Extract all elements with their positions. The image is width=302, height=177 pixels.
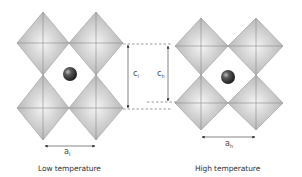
octahedron-icon — [17, 12, 69, 75]
c-low-label: cl — [133, 69, 139, 79]
a-low-label: al — [64, 147, 70, 157]
high-temperature-structure: ah High temperature — [175, 18, 283, 173]
low-temperature-structure: al Low temperature — [17, 12, 123, 173]
c-high-label: ch — [157, 69, 165, 79]
octahedron-icon — [228, 75, 283, 130]
cation-sphere-icon — [63, 67, 77, 81]
high-temperature-caption: High temperature — [195, 164, 261, 173]
c-dimension-guides: cl ch — [123, 44, 176, 109]
octahedron-icon — [69, 75, 123, 140]
octahedron-icon — [69, 12, 123, 75]
octahedron-icon — [17, 75, 69, 140]
low-temperature-caption: Low temperature — [38, 164, 101, 173]
perovskite-diagram: al Low temperature cl ch — [0, 0, 302, 177]
a-high-label: ah — [225, 139, 233, 149]
octahedron-icon — [175, 75, 228, 130]
cation-sphere-icon — [221, 70, 235, 84]
octahedron-icon — [175, 18, 228, 75]
octahedron-icon — [228, 18, 283, 75]
